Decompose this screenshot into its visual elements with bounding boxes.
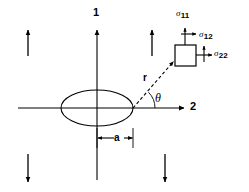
figure-root: 1 2 r θ a σ11 σ12 σ22 [0,0,249,192]
sigma-22-subscript: 22 [219,51,228,60]
sigma-12-subscript: 12 [204,32,213,41]
dimension-label-a: a [114,133,120,143]
sigma-11-subscript: 11 [181,11,189,20]
axis-label-1: 1 [93,7,99,18]
stress-arrow-sigma-22 [196,46,212,62]
stress-element-box [175,45,196,66]
diagram-canvas [0,0,249,192]
sigma-12-symbol: σ [199,29,203,39]
radius-label-r: r [143,73,147,83]
radius-r-line [133,62,174,109]
sigma-12-label: σ12 [199,30,213,41]
sigma-11-symbol: σ [176,8,180,18]
sigma-22-symbol: σ [214,48,218,58]
sigma-11-label: σ11 [176,9,189,20]
sigma-22-label: σ22 [214,49,228,60]
angle-label-theta: θ [155,92,161,104]
polar-coordinates [133,62,174,109]
axis-label-2: 2 [190,101,196,112]
